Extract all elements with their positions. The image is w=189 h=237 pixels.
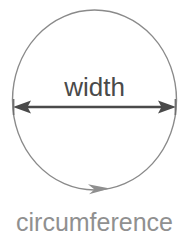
circumference-label: circumference [16,208,173,236]
circle-width-circumference-diagram: width circumference [0,0,189,237]
width-label: width [63,72,125,102]
circumference-arrow-head [88,184,110,194]
diagram-canvas: width circumference [0,0,189,237]
